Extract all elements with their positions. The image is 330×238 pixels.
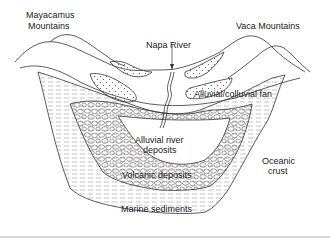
geologic-cross-section: Mayacamus Mountains Vaca Mountains Napa … <box>0 0 330 238</box>
label-volcanic-deposits: Volcanic deposits <box>122 170 192 180</box>
vaca-mountains-ridge <box>175 36 305 72</box>
label-alluvial-fan: Alluvial/colluvial fan <box>194 89 272 99</box>
label-mayacamus-line2: Mountains <box>28 21 70 31</box>
label-alluvial-river-line2: deposits <box>143 145 177 155</box>
alluvial-fan-left-upper <box>110 61 152 77</box>
label-oceanic-line1: Oceanic <box>262 156 296 166</box>
vaca-mountains-ridge-back <box>228 46 310 78</box>
label-alluvial-river-line1: Alluvial river <box>135 135 184 145</box>
bottom-divider <box>0 236 330 238</box>
label-napa-river: Napa River <box>146 40 191 50</box>
label-oceanic-line2: crust <box>268 166 288 176</box>
label-marine-sediments: Marine sediments <box>121 204 193 214</box>
label-vaca-mountains: Vaca Mountains <box>236 21 300 31</box>
label-mayacamus-line1: Mayacamus <box>26 10 75 20</box>
